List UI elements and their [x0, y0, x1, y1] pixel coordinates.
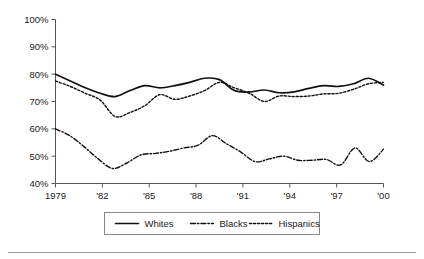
x-tick-label: '82	[96, 190, 108, 201]
y-tick-label: 90%	[29, 41, 49, 52]
y-tick-label: 40%	[29, 178, 49, 189]
legend-entries: WhitesBlacksHispanics	[116, 218, 320, 229]
x-tick-label: '00	[377, 190, 389, 201]
chart-legend: WhitesBlacksHispanics	[105, 213, 320, 235]
y-tick-label: 50%	[29, 151, 49, 162]
chart-figure: 40%50%60%70%80%90%100% 1979'82'85'88'91'…	[0, 0, 424, 259]
chart-plot-area: 40%50%60%70%80%90%100% 1979'82'85'88'91'…	[24, 14, 390, 201]
x-axis-tick-labels: 1979'82'85'88'91'94'97'00	[45, 190, 390, 201]
y-axis-ticks	[52, 20, 56, 184]
x-tick-label: '94	[284, 190, 296, 201]
legend-label-whites: Whites	[145, 218, 174, 229]
x-axis-ticks	[56, 184, 384, 188]
y-tick-label: 60%	[29, 123, 49, 134]
x-tick-label: '97	[330, 190, 342, 201]
x-tick-label: 1979	[45, 190, 66, 201]
y-tick-label: 80%	[29, 69, 49, 80]
legend-item-blacks: Blacks	[191, 218, 248, 229]
x-tick-label: '85	[143, 190, 155, 201]
x-tick-label: '88	[190, 190, 202, 201]
chart-series-group	[56, 74, 384, 168]
legend-item-whites: Whites	[116, 218, 174, 229]
y-tick-label: 70%	[29, 96, 49, 107]
x-tick-label: '91	[237, 190, 249, 201]
chart-axes	[56, 20, 384, 184]
legend-label-hispanics: Hispanics	[279, 218, 320, 229]
y-axis-tick-labels: 40%50%60%70%80%90%100%	[24, 14, 49, 189]
legend-item-hispanics: Hispanics	[250, 218, 320, 229]
line-chart: 40%50%60%70%80%90%100% 1979'82'85'88'91'…	[0, 0, 424, 259]
series-line-blacks	[56, 129, 384, 169]
legend-label-blacks: Blacks	[220, 218, 248, 229]
y-tick-label: 100%	[24, 14, 49, 25]
